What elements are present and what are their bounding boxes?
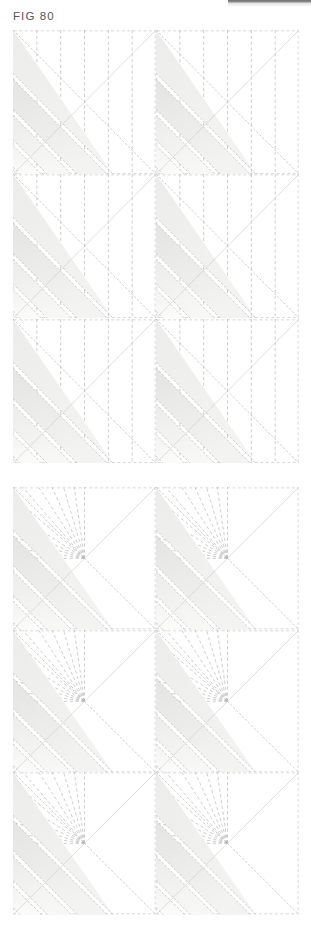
quilt-block [156,772,299,915]
quilt-block [156,487,299,630]
figure-panel-plain [13,30,299,463]
quilt-block [156,174,299,318]
quilt-block-art-fan [156,772,299,915]
figure-label: FIG 80 [13,10,55,22]
quilt-block [13,772,156,915]
block-grid-plain [13,30,299,463]
quilt-block-art-plain [156,319,299,463]
quilt-block [13,174,156,318]
quilt-block [13,630,156,773]
quilt-block [13,319,156,463]
quilt-block-art-fan [156,487,299,630]
quilt-block-art-fan [156,630,299,773]
figure-panel-fan [13,487,299,915]
quilt-block [13,487,156,630]
quilt-block [156,319,299,463]
quilt-block-art-plain [13,174,156,318]
quilt-block [13,30,156,174]
quilt-block [156,630,299,773]
quilt-block-art-plain [13,30,156,174]
quilt-block-art-fan [13,630,156,773]
block-grid-fan [13,487,299,915]
quilt-block-art-fan [13,772,156,915]
quilt-block [156,30,299,174]
quilt-block-art-plain [156,174,299,318]
header-rule-shadow [228,3,311,7]
quilt-block-art-plain [156,30,299,174]
quilt-block-art-fan [13,487,156,630]
quilt-block-art-plain [13,319,156,463]
